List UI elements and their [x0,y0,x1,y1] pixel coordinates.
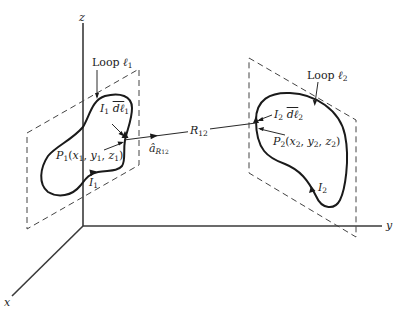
loop1-label-sub: 1 [128,61,133,70]
loop2-label-leader-arrow [313,100,317,106]
loop2-element-dl: dℓ [287,108,299,121]
loop2-dl-leader-arrow [257,117,264,121]
loop1-label-leader-arrow [95,93,99,99]
r12-sub: 12 [198,129,208,138]
loop1-element-dl-sub: 1 [124,107,129,116]
p1-point-label: P1(x1, y1, z1) [56,150,123,163]
loop1-label-text: Loop [92,56,123,69]
y-axis-label: y [386,220,392,231]
loop1-current-sub: 1 [93,181,98,190]
loop2-label-text: Loop [307,69,338,82]
diagram-canvas: z y x Loop ℓ1 I1 dℓ1 P1(x1, y1, z1) I1 â… [0,0,403,324]
loop2-label: Loop ℓ2 [307,70,347,83]
z-axis-label: z [79,12,85,23]
loop2-dl-arrow [253,116,259,123]
loop1-element-dl: dℓ [113,102,125,115]
r12-label: R12 [188,125,210,138]
loop1-label: Loop ℓ1 [92,57,132,70]
loop2-current-label: I2 [318,182,327,195]
x-axis-label: x [4,297,10,308]
loop1-element-current-sub: 1 [104,107,109,116]
loop2-current-sub: 2 [322,186,327,195]
p2-leader-arrow [258,127,264,131]
loop2-label-sub: 2 [343,74,348,83]
loop2-current-element-label: I2 dℓ2 [274,109,303,122]
loop1-current-element-label: I1 dℓ1 [100,103,129,116]
p2-point-label: P2(x2, y2, z2) [273,136,340,149]
unit-vector-sub-sub: 12 [161,148,169,155]
loop1-current-label: I1 [89,177,98,190]
r12-direction-arrow [150,134,158,140]
x-axis [12,226,83,296]
p2-close-paren: ) [336,135,340,148]
unit-vector-label: âR12 [149,143,169,156]
p1-close-paren: ) [119,149,123,162]
loop2-element-current-sub: 2 [278,113,283,122]
loop2-element-dl-sub: 2 [298,113,303,122]
unit-vector-sub: R12 [156,147,169,156]
